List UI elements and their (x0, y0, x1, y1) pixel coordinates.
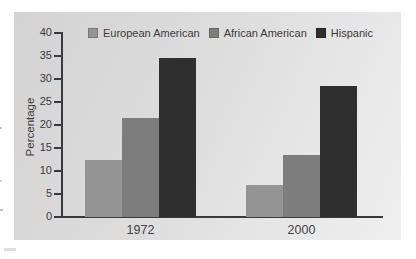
bar-1972-european-american (85, 160, 122, 217)
figure: European AmericanAfrican AmericanHispani… (0, 0, 416, 259)
legend-swatch-icon (316, 28, 326, 38)
legend-item-hispanic: Hispanic (316, 27, 373, 39)
legend-swatch-icon (88, 28, 98, 38)
x-axis-label-2000: 2000 (262, 223, 342, 237)
scan-artifact (4, 248, 16, 251)
y-tick-mark (54, 78, 61, 80)
y-axis-line (61, 32, 63, 218)
y-tick-label: 5 (22, 187, 52, 200)
legend-label: Hispanic (331, 27, 373, 39)
y-tick-mark (54, 193, 61, 195)
legend: European AmericanAfrican AmericanHispani… (88, 27, 382, 39)
bar-2000-african-american (283, 155, 320, 217)
legend-label: European American (103, 27, 200, 39)
y-tick-label: 30 (22, 72, 52, 85)
y-tick-mark (54, 101, 61, 103)
y-tick-mark (54, 216, 61, 218)
y-tick-label: 0 (22, 210, 52, 223)
y-tick-label: 15 (22, 141, 52, 154)
y-tick-label: 35 (22, 49, 52, 62)
legend-swatch-icon (209, 28, 219, 38)
y-tick-label: 40 (22, 26, 52, 39)
y-tick-mark (54, 32, 61, 34)
y-tick-label: 20 (22, 118, 52, 131)
y-tick-label: 25 (22, 95, 52, 108)
y-tick-mark (54, 55, 61, 57)
scan-artifact (0, 209, 3, 211)
x-axis-label-1972: 1972 (101, 223, 181, 237)
legend-item-european-american: European American (88, 27, 200, 39)
bar-2000-hispanic (320, 86, 357, 217)
bar-1972-african-american (122, 118, 159, 217)
y-tick-mark (54, 124, 61, 126)
y-tick-mark (54, 147, 61, 149)
scan-artifact (0, 127, 2, 129)
y-tick-mark (54, 170, 61, 172)
chart-panel: European AmericanAfrican AmericanHispani… (14, 12, 401, 240)
bar-1972-hispanic (159, 58, 196, 217)
scan-artifact (0, 180, 2, 182)
legend-item-african-american: African American (209, 27, 307, 39)
bar-2000-european-american (246, 185, 283, 217)
y-tick-label: 10 (22, 164, 52, 177)
legend-label: African American (224, 27, 307, 39)
